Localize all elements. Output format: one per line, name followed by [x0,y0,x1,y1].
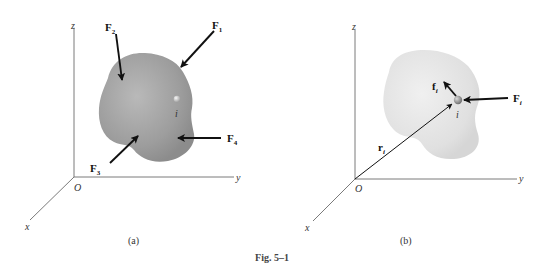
y-axis-label: y [235,172,241,183]
position-vector-label: ri [378,141,385,156]
external-force-label: Fi [513,92,522,107]
panel-a: z y x O i F2 F1 F3 F4 (a) [24,19,241,247]
force-label-f2: F2 [105,21,116,36]
x-axis-label: x [24,221,30,232]
particle-i-a [174,96,181,103]
figure-caption: Fig. 5–1 [255,252,289,263]
rigid-body-b [383,50,479,159]
z-axis-label: z [70,20,75,31]
origin-label: O [355,183,362,194]
force-label-f3: F3 [90,162,101,177]
x-axis [30,177,74,220]
panel-a-label: (a) [128,235,139,247]
panel-b: z y x O i Fi fi ri (b) [304,21,524,247]
figure-canvas: z y x O i F2 F1 F3 F4 (a) z y x O i Fi f… [0,0,544,272]
z-axis-label: z [351,21,356,32]
point-i-label: i [175,108,178,119]
origin-label: O [74,182,81,193]
panel-b-label: (b) [400,235,412,247]
y-axis-label: y [518,173,524,184]
point-i-label: i [456,109,459,120]
x-axis-label: x [304,222,310,233]
particle-i-b [454,96,462,104]
x-axis [313,179,355,221]
force-label-f4: F4 [227,132,238,147]
rigid-body-a [99,53,194,162]
force-arrow-f1 [181,31,214,67]
